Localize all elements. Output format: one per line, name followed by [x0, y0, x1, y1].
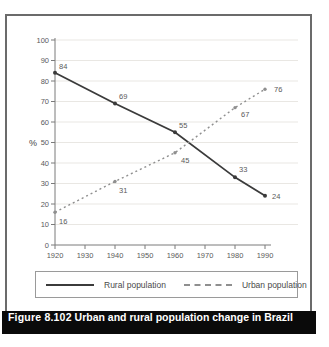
- y-tick-label: 100: [36, 36, 49, 45]
- data-label: 69: [119, 92, 127, 101]
- y-axis-title: %: [29, 138, 37, 148]
- x-tick-label: 1990: [257, 251, 274, 260]
- y-tick-label: 80: [41, 77, 49, 86]
- data-point: [113, 180, 116, 183]
- rural-line-sample-icon: [46, 284, 94, 286]
- data-point: [263, 88, 266, 91]
- data-point: [233, 106, 236, 109]
- data-label: 84: [59, 62, 67, 71]
- y-tick-label: 30: [41, 179, 49, 188]
- data-label: 31: [119, 186, 127, 195]
- data-label: 16: [59, 217, 67, 226]
- data-point: [53, 211, 56, 214]
- y-tick-label: 50: [41, 138, 49, 147]
- legend-label-rural: Rural population: [104, 280, 166, 290]
- legend-label-urban: Urban population: [242, 280, 307, 290]
- data-label: 55: [179, 121, 187, 130]
- figure-caption-text: Urban and rural population change in Bra…: [75, 311, 293, 323]
- y-tick-label: 40: [41, 159, 49, 168]
- data-label: 45: [181, 156, 189, 165]
- data-point: [233, 175, 237, 179]
- y-tick-label: 60: [41, 118, 49, 127]
- data-point: [263, 194, 267, 198]
- data-point: [53, 71, 57, 75]
- x-tick-label: 1930: [77, 251, 94, 260]
- x-tick-label: 1970: [197, 251, 214, 260]
- y-tick-label: 20: [41, 200, 49, 209]
- legend-item-urban: Urban population: [184, 280, 307, 290]
- figure-page: 0102030405060708090100%19201930194019501…: [0, 0, 329, 347]
- data-point: [173, 151, 176, 154]
- x-tick-label: 1920: [47, 251, 64, 260]
- x-tick-label: 1960: [167, 251, 184, 260]
- data-label: 24: [272, 192, 280, 201]
- figure-caption: Figure 8.102 Urban and rural population …: [2, 311, 316, 334]
- chart-legend: Rural population Urban population: [35, 271, 298, 298]
- y-tick-label: 90: [41, 56, 49, 65]
- x-tick-label: 1940: [107, 251, 124, 260]
- data-label: 76: [274, 85, 282, 94]
- y-tick-label: 70: [41, 97, 49, 106]
- data-label: 33: [239, 165, 247, 174]
- urban-line-sample-icon: [184, 284, 232, 286]
- x-tick-label: 1980: [227, 251, 244, 260]
- data-point: [173, 130, 177, 134]
- y-tick-label: 10: [41, 220, 49, 229]
- y-tick-label: 0: [45, 241, 49, 250]
- data-point: [113, 102, 117, 106]
- x-tick-label: 1950: [137, 251, 154, 260]
- figure-caption-number: Figure 8.102: [8, 311, 72, 323]
- legend-item-rural: Rural population: [46, 280, 166, 290]
- data-label: 67: [241, 110, 249, 119]
